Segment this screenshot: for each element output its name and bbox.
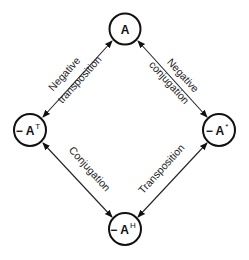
edge-label-conjugation: Conjugation: [67, 144, 114, 194]
node-superscript: H: [130, 221, 136, 230]
node-prefix: −: [16, 124, 26, 138]
node-base: A: [216, 124, 225, 138]
node-negative-a-hermitian: − AH: [109, 213, 141, 245]
node-base: A: [26, 124, 35, 138]
edge-label-transposition: Transposition: [136, 141, 187, 196]
edge-top-left: Negative transposition: [43, 41, 112, 117]
node-superscript: T: [35, 122, 40, 131]
node-negative-a-transpose: − AT: [14, 114, 46, 146]
node-base: A: [121, 23, 130, 37]
node-prefix: −: [110, 223, 120, 237]
node-base: A: [120, 223, 129, 237]
node-a: A: [110, 14, 141, 45]
matrix-operation-diagram: Negative transposition Negative conjugat…: [0, 0, 249, 260]
node-negative-a-conjugate: − A*: [203, 114, 235, 146]
edge-bottom-left: Conjugation: [43, 143, 113, 217]
node-superscript: *: [225, 122, 228, 131]
edge-top-right: Negative conjugation: [138, 41, 207, 117]
node-prefix: −: [206, 124, 216, 138]
svg-text:A: A: [121, 23, 130, 37]
edge-bottom-right: Transposition: [136, 141, 207, 217]
